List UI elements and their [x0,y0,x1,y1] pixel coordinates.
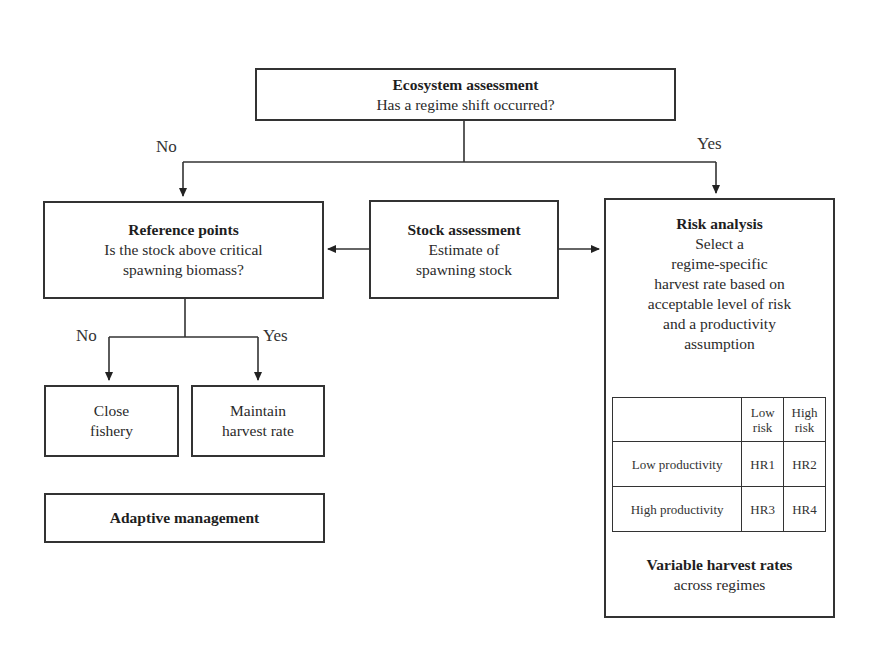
adaptive-management-box: Adaptive management [44,493,325,543]
risk-title: Risk analysis [676,214,763,234]
reference-line2: spawning biomass? [123,260,244,280]
ecosystem-question: Has a regime shift occurred? [376,95,554,115]
risk-footer-title: Variable harvest rates [606,555,833,575]
header-text: risk [786,420,823,435]
risk-line: acceptable level of risk [648,294,791,314]
header-text: High [786,405,823,420]
row-label: Low productivity [613,442,742,487]
stock-line2: spawning stock [416,260,512,280]
reference-points-box: Reference points Is the stock above crit… [43,201,324,299]
header-text: risk [744,420,781,435]
ecosystem-assessment-box: Ecosystem assessment Has a regime shift … [255,68,676,121]
risk-line: harvest rate based on [654,274,784,294]
adaptive-title: Adaptive management [110,508,259,528]
stock-assessment-box: Stock assessment Estimate of spawning st… [369,200,559,299]
table-row: High productivity HR3 HR4 [613,487,826,532]
risk-line: assumption [684,334,755,354]
table-header-row: Low risk High risk [613,398,826,442]
close-line1: Close [94,401,129,421]
table-header-high-risk: High risk [784,398,826,442]
table-row: Low productivity HR1 HR2 [613,442,826,487]
maintain-line1: Maintain [230,401,286,421]
close-line2: fishery [90,421,133,441]
sub-branch-label-yes: Yes [263,326,288,346]
reference-title: Reference points [128,220,238,240]
harvest-rate-table: Low risk High risk Low productivity HR1 … [612,397,826,532]
header-text: Low [744,405,781,420]
cell-value: HR2 [784,442,826,487]
close-fishery-box: Close fishery [44,385,179,457]
table-header-low-risk: Low risk [742,398,784,442]
row-label: High productivity [613,487,742,532]
branch-label-yes: Yes [697,134,722,154]
maintain-harvest-rate-box: Maintain harvest rate [191,385,325,457]
cell-value: HR4 [784,487,826,532]
risk-line: Select a [695,234,744,254]
stock-title: Stock assessment [407,220,520,240]
cell-value: HR3 [742,487,784,532]
branch-label-no: No [156,137,177,157]
stock-line1: Estimate of [428,240,499,260]
cell-value: HR1 [742,442,784,487]
risk-footer-sub: across regimes [606,575,833,595]
ecosystem-title: Ecosystem assessment [393,75,539,95]
reference-line1: Is the stock above critical [104,240,262,260]
sub-branch-label-no: No [76,326,97,346]
maintain-line2: harvest rate [222,421,294,441]
table-corner-cell [613,398,742,442]
risk-line: regime-specific [671,254,767,274]
risk-line: and a productivity [663,314,776,334]
